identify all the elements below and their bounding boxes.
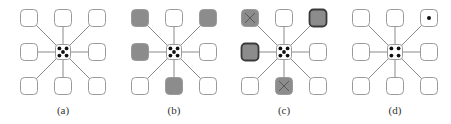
token-dot <box>65 54 69 58</box>
node-box <box>89 78 106 95</box>
center-node <box>277 45 292 60</box>
center-node <box>56 45 71 60</box>
center-node <box>388 45 403 60</box>
token-dot <box>390 47 394 51</box>
node-box <box>55 78 72 95</box>
node-bottom-empty <box>387 78 404 95</box>
node-box <box>166 78 183 95</box>
node-box <box>353 44 370 61</box>
node-top-left-shaded-crossed <box>242 10 259 27</box>
token-dot <box>279 54 283 58</box>
panel-label: (a) <box>57 104 70 117</box>
center-box <box>388 45 403 60</box>
panel-d: (d) <box>353 10 438 118</box>
node-box <box>387 78 404 95</box>
node-box <box>21 78 38 95</box>
panel-b: (b) <box>132 10 217 118</box>
node-top-empty <box>387 10 404 27</box>
node-bottom-right-empty <box>89 78 106 95</box>
token-dot <box>286 54 290 58</box>
node-box <box>89 10 106 27</box>
node-left-empty <box>21 44 38 61</box>
node-bottom-left-empty <box>242 78 259 95</box>
node-right-empty <box>310 44 327 61</box>
token-dot <box>286 47 290 51</box>
token-dot <box>427 16 431 20</box>
node-box <box>421 78 438 95</box>
token-dot <box>58 54 62 58</box>
node-box <box>387 10 404 27</box>
node-box <box>242 78 259 95</box>
node-box <box>276 10 293 27</box>
node-bottom-right-empty <box>310 78 327 95</box>
token-dot <box>169 47 173 51</box>
node-box <box>421 44 438 61</box>
node-bottom-left-empty <box>21 78 38 95</box>
node-box <box>310 10 327 27</box>
node-right-empty <box>89 44 106 61</box>
node-left-shaded <box>132 44 149 61</box>
node-bottom-right-empty <box>200 78 217 95</box>
node-box <box>310 44 327 61</box>
token-dot <box>172 50 176 54</box>
node-box <box>132 10 149 27</box>
node-bottom-empty <box>55 78 72 95</box>
node-box <box>200 44 217 61</box>
node-top-right-shaded-bold <box>310 10 327 27</box>
node-box <box>55 10 72 27</box>
node-bottom-left-empty <box>132 78 149 95</box>
token-dot <box>397 47 401 51</box>
token-dot <box>390 54 394 58</box>
node-right-empty <box>200 44 217 61</box>
node-box <box>132 78 149 95</box>
token-dot <box>65 47 69 51</box>
node-box <box>200 10 217 27</box>
token-dot <box>176 47 180 51</box>
node-box <box>21 10 38 27</box>
node-top-right-empty-dot <box>421 10 438 27</box>
node-right-empty <box>421 44 438 61</box>
node-box <box>89 44 106 61</box>
node-box <box>21 44 38 61</box>
token-dot <box>279 47 283 51</box>
panel-c: (c) <box>242 10 327 118</box>
token-dot <box>61 50 65 54</box>
node-top-right-shaded <box>200 10 217 27</box>
panel-label: (b) <box>168 104 181 117</box>
node-bottom-shaded <box>166 78 183 95</box>
panel-label: (c) <box>278 104 291 117</box>
node-box <box>166 10 183 27</box>
token-dot <box>282 50 286 54</box>
node-top-left-empty <box>21 10 38 27</box>
node-bottom-left-empty <box>353 78 370 95</box>
token-dot <box>169 54 173 58</box>
node-bottom-right-empty <box>421 78 438 95</box>
node-left-empty <box>353 44 370 61</box>
center-node <box>167 45 182 60</box>
token-dot <box>176 54 180 58</box>
node-top-empty <box>166 10 183 27</box>
node-top-left-empty <box>353 10 370 27</box>
node-bottom-shaded-crossed <box>276 78 293 95</box>
token-dot <box>397 54 401 58</box>
star-topology-diagram: (a)(b)(c)(d) <box>0 0 451 124</box>
node-top-left-shaded <box>132 10 149 27</box>
token-dot <box>58 47 62 51</box>
node-top-empty <box>55 10 72 27</box>
node-box <box>200 78 217 95</box>
node-box <box>353 78 370 95</box>
node-box <box>132 44 149 61</box>
panel-label: (d) <box>389 104 402 117</box>
node-top-right-empty <box>89 10 106 27</box>
node-top-empty <box>276 10 293 27</box>
node-box <box>353 10 370 27</box>
node-box <box>242 44 259 61</box>
panel-a: (a) <box>21 10 106 118</box>
node-left-shaded-bold <box>242 44 259 61</box>
node-box <box>310 78 327 95</box>
